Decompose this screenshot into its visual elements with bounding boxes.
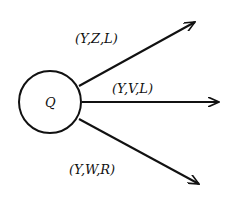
edge-label-top: (Y,Z,L) [75,31,118,46]
state-diagram: Q (Y,Z,L) (Y,V,L) (Y,W,R) [0,0,232,198]
state-node-label: Q [45,95,56,110]
edge-label-middle: (Y,V,L) [112,81,153,96]
edge-label-bottom: (Y,W,R) [69,162,115,177]
